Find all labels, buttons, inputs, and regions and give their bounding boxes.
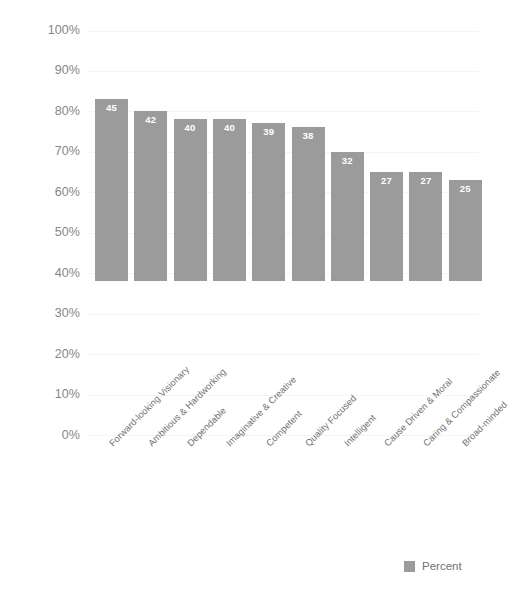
bar-value-label: 40	[213, 123, 246, 133]
x-axis-labels: Forward-looking VisionaryAmbitious & Har…	[0, 436, 479, 550]
plot-area: 45424040393832272725	[0, 0, 479, 436]
bar-value-label: 39	[252, 127, 285, 137]
bar-value-label: 27	[370, 176, 403, 186]
bar[interactable]: 39	[252, 123, 285, 281]
bar[interactable]: 27	[370, 172, 403, 281]
bar[interactable]: 27	[409, 172, 442, 281]
bar-value-label: 45	[95, 103, 128, 113]
bar-value-label: 32	[331, 156, 364, 166]
bar[interactable]: 45	[95, 99, 128, 281]
bar[interactable]: 40	[174, 119, 207, 281]
bar-value-label: 40	[174, 123, 207, 133]
legend-label-percent: Percent	[422, 561, 462, 573]
legend-swatch-percent	[404, 561, 415, 572]
bar[interactable]: 40	[213, 119, 246, 281]
bar-value-label: 25	[449, 184, 482, 194]
bar[interactable]: 32	[331, 152, 364, 281]
bar[interactable]: 42	[134, 111, 167, 281]
bar-value-label: 38	[292, 131, 325, 141]
bar[interactable]: 25	[449, 180, 482, 281]
bar[interactable]: 38	[292, 127, 325, 281]
bar-value-label: 42	[134, 115, 167, 125]
legend: Percent	[404, 561, 462, 573]
bar-value-label: 27	[409, 176, 442, 186]
